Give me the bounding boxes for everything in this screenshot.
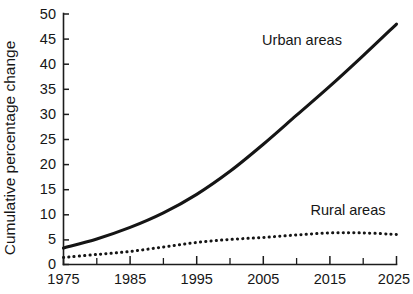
y-axis-ticks: [64, 14, 70, 265]
y-tick-label-35: 35: [40, 81, 56, 97]
series-label-urban: Urban areas: [262, 32, 342, 48]
x-tick-label-2005: 2005: [247, 271, 279, 287]
x-tick-label-1995: 1995: [181, 271, 213, 287]
y-tick-labels: 50 45 40 35 30 25 20 15 10 5 0: [40, 6, 56, 272]
y-tick-label-50: 50: [40, 6, 56, 22]
x-tick-label-1975: 1975: [47, 271, 79, 287]
x-tick-labels: 1975 1985 1995 2005 2015 2025: [47, 271, 410, 287]
y-axis-title: Cumulative percentage change: [1, 41, 18, 256]
y-tick-label-10: 10: [40, 206, 56, 222]
y-tick-label-0: 0: [48, 256, 56, 272]
x-axis-ticks: [64, 256, 397, 265]
y-tick-label-25: 25: [40, 131, 56, 147]
y-tick-label-15: 15: [40, 181, 56, 197]
y-tick-label-5: 5: [48, 231, 56, 247]
x-tick-label-2025: 2025: [378, 271, 410, 287]
y-tick-label-20: 20: [40, 156, 56, 172]
y-tick-label-40: 40: [40, 56, 56, 72]
y-tick-label-30: 30: [40, 106, 56, 122]
chart-container: Cumulative percentage change 50 45 40 35…: [0, 0, 413, 294]
series-label-rural: Rural areas: [311, 202, 386, 218]
series-line-rural: [64, 233, 397, 258]
x-tick-label-1985: 1985: [114, 271, 146, 287]
y-tick-label-45: 45: [40, 31, 56, 47]
line-chart: Cumulative percentage change 50 45 40 35…: [0, 0, 413, 294]
x-tick-label-2015: 2015: [314, 271, 346, 287]
